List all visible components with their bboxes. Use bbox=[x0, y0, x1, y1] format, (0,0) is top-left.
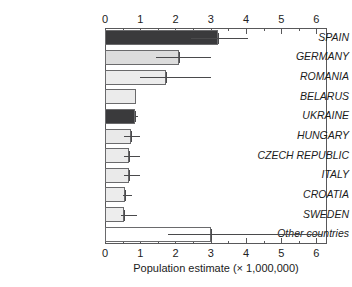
x-tick-label: 2 bbox=[165, 13, 185, 25]
error-bar-cap bbox=[124, 210, 125, 221]
x-tick-minor bbox=[264, 241, 265, 244]
error-bar-cap bbox=[135, 111, 136, 122]
x-tick-minor bbox=[228, 241, 229, 244]
x-tick-minor bbox=[299, 28, 300, 31]
x-tick-label: 2 bbox=[165, 247, 185, 259]
category-label: UKRAINE bbox=[250, 110, 352, 121]
bar bbox=[105, 89, 136, 104]
category-label: SWEDEN bbox=[250, 209, 352, 220]
error-bar-line bbox=[123, 195, 133, 196]
x-tick-minor bbox=[228, 28, 229, 31]
error-bar-cap bbox=[131, 131, 132, 142]
error-bar-cap bbox=[211, 229, 212, 240]
error-bar-line bbox=[124, 175, 140, 176]
category-label: HUNGARY bbox=[250, 130, 352, 141]
bar bbox=[105, 109, 135, 124]
x-tick-label: 6 bbox=[306, 13, 326, 25]
error-bar-line bbox=[168, 234, 321, 235]
x-tick-label: 5 bbox=[271, 13, 291, 25]
x-tick-label: 4 bbox=[236, 13, 256, 25]
error-bar-line bbox=[156, 57, 211, 58]
x-tick-label: 3 bbox=[201, 247, 221, 259]
x-tick-label: 5 bbox=[271, 247, 291, 259]
category-label: CROATIA bbox=[250, 189, 352, 200]
x-tick-major bbox=[246, 238, 247, 244]
category-label: BELARUS bbox=[250, 91, 352, 102]
category-label: GERMANY bbox=[250, 51, 352, 62]
x-tick-minor bbox=[264, 28, 265, 31]
error-bar-line bbox=[140, 77, 210, 78]
x-tick-label: 6 bbox=[306, 247, 326, 259]
x-tick-label: 4 bbox=[236, 247, 256, 259]
x-tick-label: 3 bbox=[201, 13, 221, 25]
category-label: ROMANIA bbox=[250, 71, 352, 82]
error-bar-cap bbox=[125, 190, 126, 201]
x-tick-label: 0 bbox=[95, 247, 115, 259]
x-tick-label: 1 bbox=[130, 13, 150, 25]
error-bar-line bbox=[124, 156, 140, 157]
error-bar-cap bbox=[218, 33, 219, 44]
x-tick-minor bbox=[299, 241, 300, 244]
x-axis-title: Population estimate (× 1,000,000) bbox=[105, 262, 327, 274]
error-bar-cap bbox=[129, 151, 130, 162]
x-tick-label: 1 bbox=[130, 247, 150, 259]
error-bar-line bbox=[124, 136, 140, 137]
x-tick-label: 0 bbox=[95, 13, 115, 25]
error-bar-cap bbox=[129, 170, 130, 181]
category-label: SPAIN bbox=[250, 32, 352, 43]
x-tick-major bbox=[246, 28, 247, 34]
error-bar-cap bbox=[179, 52, 180, 63]
error-bar-line bbox=[121, 215, 137, 216]
category-label: ITALY bbox=[250, 169, 352, 180]
error-bar-line bbox=[191, 38, 247, 39]
category-label: CZECH REPUBLIC bbox=[250, 150, 352, 161]
error-bar-cap bbox=[166, 72, 167, 83]
population-estimate-bar-chart: 0123456 0123456 SPAINGERMANYROMANIABELAR… bbox=[0, 0, 352, 287]
